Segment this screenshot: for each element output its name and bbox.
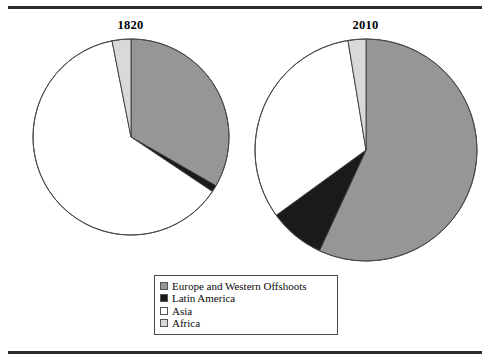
- bottom-rule: [8, 351, 482, 354]
- legend-label-europe: Europe and Western Offshoots: [172, 280, 307, 292]
- legend-swatch-asia: [160, 307, 168, 315]
- pie-svg-wrap-2010: [248, 37, 483, 263]
- pie-title-2010: 2010: [248, 18, 483, 33]
- legend-swatch-europe: [160, 282, 168, 290]
- legend-item-asia: Asia: [160, 305, 332, 317]
- pie-title-1820: 1820: [18, 18, 243, 33]
- pie-graphic-1820: [31, 37, 231, 237]
- pie-graphic-2010: [253, 37, 479, 263]
- legend-label-latin-america: Latin America: [172, 292, 235, 304]
- pie-svg-wrap-1820: [18, 37, 243, 237]
- legend-item-africa: Africa: [160, 317, 332, 329]
- legend-label-asia: Asia: [172, 305, 192, 317]
- legend-swatch-africa: [160, 319, 168, 327]
- legend-swatch-latin-america: [160, 294, 168, 302]
- legend-label-africa: Africa: [172, 317, 200, 329]
- legend-item-europe: Europe and Western Offshoots: [160, 280, 332, 292]
- pie-chart-1820: 1820: [18, 18, 243, 237]
- legend-item-latin-america: Latin America: [160, 292, 332, 304]
- pie-chart-2010: 2010: [248, 18, 483, 263]
- legend: Europe and Western Offshoots Latin Ameri…: [154, 275, 338, 335]
- top-rule: [8, 6, 482, 9]
- figure-canvas: 1820 2010 Europe and Western Offshoots L…: [0, 0, 490, 360]
